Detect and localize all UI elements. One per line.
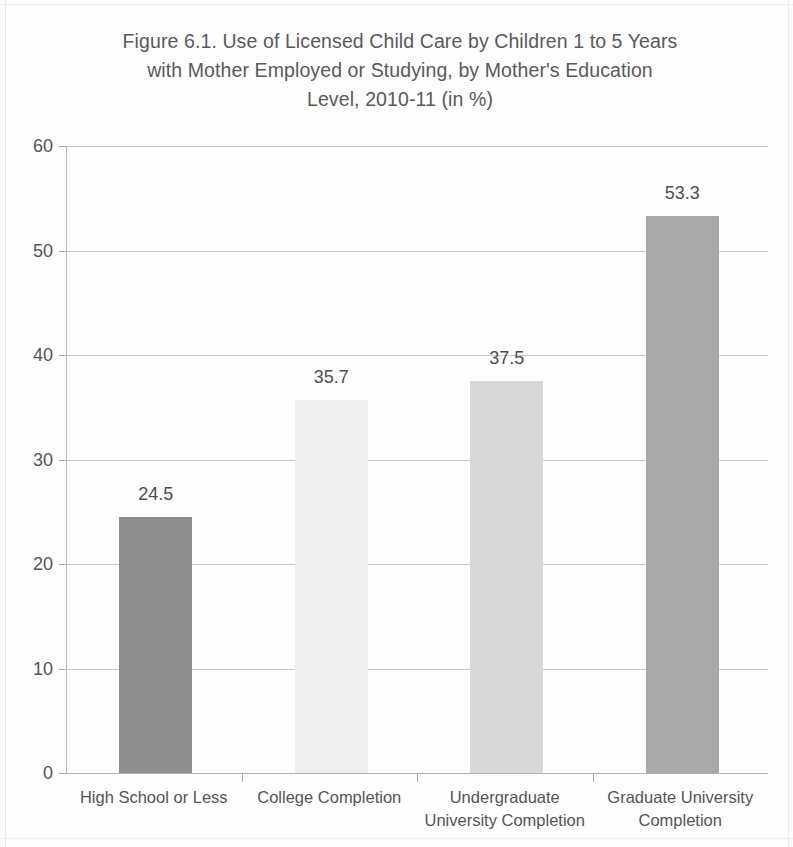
y-axis-tick-mark [59, 460, 66, 461]
y-axis-tick-label: 10 [33, 658, 53, 679]
x-axis-category-label: UndergraduateUniversity Completion [417, 786, 593, 832]
bar [295, 400, 368, 773]
y-axis-tick-mark [59, 564, 66, 565]
x-axis-category-label-line: Completion [593, 809, 769, 832]
x-axis-category-label: High School or Less [66, 786, 242, 809]
x-axis-boundary-tick [417, 773, 418, 782]
chart-title: Figure 6.1. Use of Licensed Child Care b… [70, 27, 730, 114]
x-axis-category-label-line: College Completion [242, 786, 418, 809]
bar-value-label: 37.5 [447, 348, 567, 369]
y-axis-tick-mark [59, 669, 66, 670]
y-axis-tick-mark [59, 773, 66, 774]
x-axis-category-label: Graduate UniversityCompletion [593, 786, 769, 832]
plot-area: 010203040506024.5High School or Less35.7… [66, 146, 768, 773]
figure-page: Figure 6.1. Use of Licensed Child Care b… [0, 0, 793, 847]
page-border-left [5, 0, 6, 847]
page-border-right [788, 0, 789, 847]
y-axis-tick-mark [59, 355, 66, 356]
bar [646, 216, 719, 773]
bar-value-label: 24.5 [96, 484, 216, 505]
bar [119, 517, 192, 773]
y-axis-tick-label: 20 [33, 554, 53, 575]
bar [470, 381, 543, 773]
y-axis-tick-mark [59, 146, 66, 147]
y-axis-tick-label: 50 [33, 240, 53, 261]
x-axis-boundary-tick [242, 773, 243, 782]
y-axis-tick-mark [59, 251, 66, 252]
gridline-60 [66, 146, 768, 147]
x-axis-category-label-line: High School or Less [66, 786, 242, 809]
x-axis-category-label-line: University Completion [417, 809, 593, 832]
y-axis-tick-label: 30 [33, 449, 53, 470]
bar-value-label: 35.7 [271, 367, 391, 388]
page-border-bottom [0, 838, 793, 839]
y-axis-tick-label: 0 [43, 763, 53, 784]
x-axis-category-label-line: Undergraduate [417, 786, 593, 809]
y-axis-tick-label: 60 [33, 136, 53, 157]
bar-value-label: 53.3 [622, 183, 742, 204]
x-axis-category-label-line: Graduate University [593, 786, 769, 809]
page-border-top [0, 4, 793, 5]
y-axis-tick-label: 40 [33, 345, 53, 366]
x-axis-category-label: College Completion [242, 786, 418, 809]
x-axis-boundary-tick [593, 773, 594, 782]
